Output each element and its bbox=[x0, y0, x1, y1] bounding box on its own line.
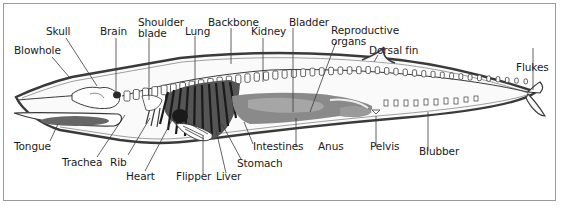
flukes-shape bbox=[526, 82, 545, 116]
label-rib: Rib bbox=[110, 157, 127, 168]
heart-shape bbox=[172, 109, 188, 123]
label-brain: Brain bbox=[100, 26, 127, 37]
label-anus: Anus bbox=[318, 141, 344, 152]
label-dorsal-fin: Dorsal fin bbox=[369, 45, 418, 56]
label-lung: Lung bbox=[185, 26, 210, 37]
brain-shape bbox=[113, 92, 121, 99]
label-liver: Liver bbox=[216, 171, 241, 182]
tongue-shape bbox=[41, 116, 109, 126]
label-pelvis: Pelvis bbox=[370, 141, 399, 152]
label-blubber: Blubber bbox=[419, 146, 459, 157]
label-intestines: Intestines bbox=[253, 141, 303, 152]
label-heart: Heart bbox=[126, 171, 155, 182]
label-blowhole: Blowhole bbox=[14, 45, 61, 56]
label-bladder: Bladder bbox=[289, 17, 329, 28]
label-shoulder-blade-line2: blade bbox=[138, 28, 167, 39]
label-trachea: Trachea bbox=[62, 157, 102, 168]
label-skull: Skull bbox=[46, 26, 70, 37]
label-reproductive-organs-line2: organs bbox=[331, 36, 366, 47]
label-tongue: Tongue bbox=[14, 141, 51, 152]
label-stomach: Stomach bbox=[237, 158, 283, 169]
label-flipper: Flipper bbox=[176, 171, 211, 182]
label-flukes: Flukes bbox=[516, 62, 549, 73]
label-kidney: Kidney bbox=[251, 26, 286, 37]
